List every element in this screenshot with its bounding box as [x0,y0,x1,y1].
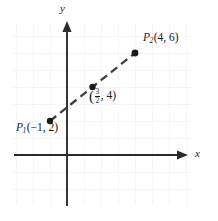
point-label-p2-subscript: 2 [150,36,154,45]
midpoint-fraction-denominator: 2 [95,96,101,105]
point-label-p2-coords: (4, 6) [154,31,179,43]
point-label-p1-subscript: 1 [23,126,27,135]
point-label-p1: P1(−1, 2) [16,122,58,134]
midpoint-open-paren: ( [89,89,94,104]
midpoint-label-rest: , 4) [101,90,116,102]
midpoint-fraction: 32 [95,88,101,104]
plot-canvas [0,0,218,221]
point-p2-dot [132,50,139,57]
grid-area [11,23,191,206]
point-label-p1-variable: P [16,121,23,133]
point-label-p2-variable: P [143,31,150,43]
point-label-p2: P2(4, 6) [143,32,179,44]
x-axis-label: x [195,148,200,159]
point-label-p1-coords: (−1, 2) [27,121,58,133]
coordinate-plane-figure: y x P1(−1, 2) P2(4, 6) (32, 4) [0,0,218,221]
y-axis-label: y [60,3,65,14]
midpoint-fraction-numerator: 3 [95,88,101,96]
point-label-midpoint: (32, 4) [89,88,116,104]
